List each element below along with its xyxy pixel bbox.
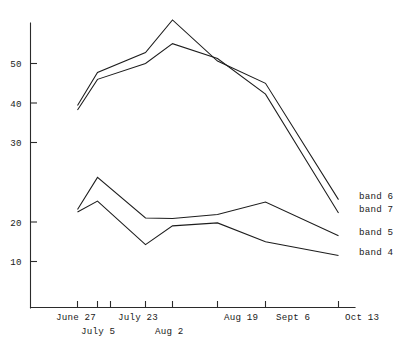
x-tick-label-july5: July 5 (81, 326, 115, 337)
x-tick-label-june27: June 27 (56, 312, 96, 323)
y-tick-label-20: 20 (10, 218, 21, 229)
line-chart-figure: 50 40 30 20 10 June 27 July 23 Aug 19 Se… (0, 0, 403, 351)
legend-item-band-7: band 7 (359, 204, 393, 215)
legend-item-band-5: band 5 (359, 227, 393, 238)
legend-item-band-4: band 4 (359, 247, 394, 258)
y-tick-label-30: 30 (10, 138, 21, 149)
series-line-band-5 (78, 177, 339, 235)
y-tick-label-10: 10 (10, 257, 21, 268)
x-tick-label-sept6: Sept 6 (276, 312, 310, 323)
y-tick-label-40: 40 (10, 99, 21, 110)
x-tick-label-aug2: Aug 2 (155, 326, 184, 337)
x-tick-label-july23: July 23 (118, 312, 158, 323)
series-line-band-7 (78, 44, 339, 213)
y-tick-label-50: 50 (10, 59, 21, 70)
series-line-band-6 (78, 20, 339, 200)
legend-item-band-6: band 6 (359, 191, 393, 202)
chart-plot-area: 50 40 30 20 10 June 27 July 23 Aug 19 Se… (0, 0, 403, 351)
x-tick-label-aug19: Aug 19 (224, 312, 258, 323)
x-tick-label-oct13: Oct 13 (345, 312, 379, 323)
series-line-band-4 (78, 201, 339, 255)
